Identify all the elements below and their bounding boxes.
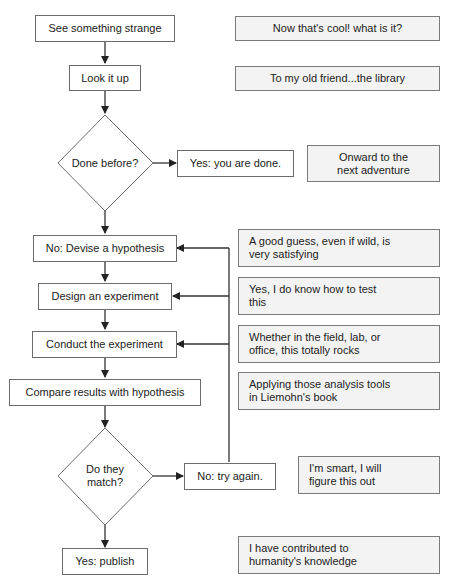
decision-line-2: match? xyxy=(70,476,140,489)
decision-label-done-before: Done before? xyxy=(64,157,146,170)
step-label: Conduct the experiment xyxy=(46,338,163,351)
note-hypothesis: A good guess, even if wild, isvery satis… xyxy=(238,229,440,267)
step-label: Yes: you are done. xyxy=(190,157,281,170)
step-label: No: Devise a hypothesis xyxy=(46,242,165,255)
step-label: Look it up xyxy=(81,72,129,85)
note-design: Yes, I do know how to testthis xyxy=(238,277,440,315)
note-see: Now that's cool! what is it? xyxy=(235,16,440,41)
step-compare-results: Compare results with hypothesis xyxy=(9,379,201,406)
note-publish: I have contributed tohumanity's knowledg… xyxy=(238,536,440,574)
step-label: Compare results with hypothesis xyxy=(26,386,185,399)
note-try-again: I'm smart, I willfigure this out xyxy=(298,456,440,494)
step-design-experiment: Design an experiment xyxy=(38,283,172,310)
step-conduct-experiment: Conduct the experiment xyxy=(32,331,177,358)
step-label: See something strange xyxy=(48,22,161,35)
step-label: Design an experiment xyxy=(51,290,158,303)
note-yes-done: Onward to thenext adventure xyxy=(307,145,440,182)
step-try-again: No: try again. xyxy=(184,463,276,490)
note-lookup: To my old friend...the library xyxy=(235,66,440,91)
note-compare: Applying those analysis toolsin Liemohn'… xyxy=(238,372,440,410)
step-see-something-strange: See something strange xyxy=(35,15,175,42)
step-devise-hypothesis: No: Devise a hypothesis xyxy=(33,235,177,262)
step-label: Yes: publish xyxy=(76,555,135,568)
decision-line-1: Do they xyxy=(70,463,140,476)
step-look-it-up: Look it up xyxy=(69,65,141,91)
step-publish: Yes: publish xyxy=(62,548,148,575)
note-conduct: Whether in the field, lab, oroffice, thi… xyxy=(238,325,440,363)
step-label: No: try again. xyxy=(197,470,262,483)
decision-label-do-they-match: Do they match? xyxy=(70,463,140,489)
step-yes-you-are-done: Yes: you are done. xyxy=(177,150,294,177)
